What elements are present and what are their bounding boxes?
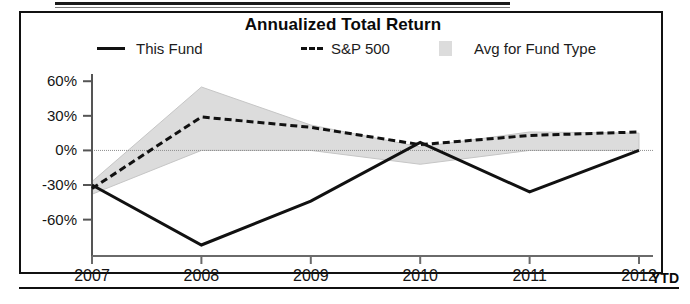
bottom-rule [19,287,679,289]
chart-screenshot: Annualized Total Return This Fund S&P 50… [0,0,690,304]
y-axis-label: -30% [19,177,77,192]
plot-area: 60%30%0%-30%-60% 20072008200920102011201… [21,13,665,276]
x-axis-label: 2009 [281,268,341,284]
x-axis-label: 2010 [390,268,450,284]
x-axis-label: 2011 [500,268,560,284]
top-rule-thin [55,7,510,8]
x-axis-label: 2007 [62,268,122,284]
plot-svg [21,13,665,276]
band-avg-for-fund-type [92,87,639,194]
x-axis-ytd-label: YTD [651,270,679,286]
x-axis-label: 2008 [171,268,231,284]
y-axis-label: 60% [19,73,77,88]
y-axis-label: 0% [19,142,77,157]
y-axis-label: 30% [19,108,77,123]
chart-frame: Annualized Total Return This Fund S&P 50… [19,11,663,274]
top-rule-thick [55,2,510,5]
y-axis-label: -60% [19,212,77,227]
